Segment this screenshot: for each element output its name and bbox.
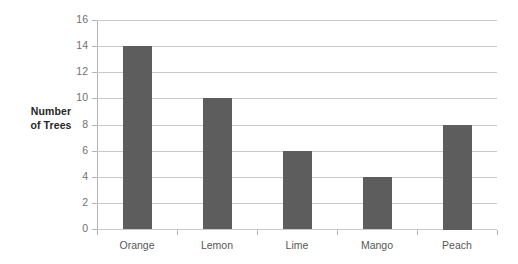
x-axis-tick-mark [417, 230, 418, 235]
y-axis-tick-label: 10 [48, 92, 88, 103]
gridline [97, 20, 497, 21]
y-axis-tick-label: 8 [48, 119, 88, 130]
x-axis-category-label: Mango [337, 239, 417, 252]
x-axis-tick-mark [497, 230, 498, 235]
gridline [97, 229, 497, 230]
gridline [97, 125, 497, 126]
bar-lemon[interactable] [203, 98, 232, 229]
x-axis-tick-mark [177, 230, 178, 235]
bar-mango[interactable] [363, 177, 392, 229]
gridline [97, 98, 497, 99]
x-axis-category-label: Lime [257, 239, 337, 252]
y-axis-tick-label: 4 [48, 171, 88, 182]
bar-peach[interactable] [443, 125, 472, 230]
y-axis-tick-label: 12 [48, 66, 88, 77]
y-axis-tick-labels: 1614121086420 [44, 0, 88, 264]
y-axis-tick-label: 14 [48, 40, 88, 51]
x-axis-category-label: Peach [417, 239, 497, 252]
bar-lime[interactable] [283, 151, 312, 229]
gridline [97, 72, 497, 73]
x-axis-tick-mark [257, 230, 258, 235]
x-axis-tick-mark [337, 230, 338, 235]
x-axis-category-label: Orange [97, 239, 177, 252]
y-axis-tick-label: 6 [48, 145, 88, 156]
y-axis-tick-label: 0 [48, 223, 88, 234]
y-axis-tick-label: 2 [48, 197, 88, 208]
y-axis-tick-label: 16 [48, 14, 88, 25]
x-axis-category-label: Lemon [177, 239, 257, 252]
plot-area [97, 20, 497, 229]
gridline [97, 46, 497, 47]
x-axis-tick-mark [97, 230, 98, 235]
bar-orange[interactable] [123, 46, 152, 229]
bar-chart: Number of Trees 1614121086420 OrangeLemo… [0, 0, 518, 264]
